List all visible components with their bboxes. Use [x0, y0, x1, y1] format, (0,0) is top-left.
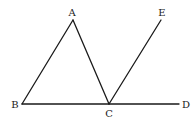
label-e: E	[158, 7, 165, 18]
segment-ab	[22, 20, 73, 104]
label-a: A	[67, 7, 76, 18]
geometry-diagram: A B C D E	[0, 0, 195, 126]
segment-ce	[109, 20, 161, 104]
label-c: C	[105, 108, 113, 119]
label-d: D	[182, 99, 190, 110]
label-b: B	[11, 99, 18, 110]
point-labels: A B C D E	[11, 7, 190, 119]
segment-ac	[73, 20, 109, 104]
segments	[22, 20, 179, 104]
